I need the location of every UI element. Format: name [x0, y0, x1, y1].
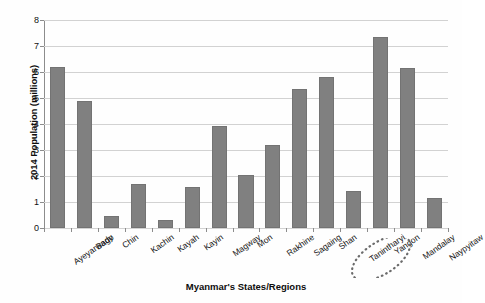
y-tick-label: 3	[34, 145, 39, 155]
bar-slot	[98, 20, 125, 228]
bar[interactable]	[319, 77, 334, 228]
bar[interactable]	[427, 198, 442, 228]
bar-slot	[259, 20, 286, 228]
y-tick-label: 1	[34, 197, 39, 207]
bar[interactable]	[212, 126, 227, 228]
bar-slot	[179, 20, 206, 228]
x-tick-label-bago: Bago	[94, 232, 116, 252]
bar[interactable]	[185, 187, 200, 228]
bar-slot	[421, 20, 448, 228]
y-tick-label: 5	[34, 93, 39, 103]
bar-slot	[233, 20, 260, 228]
bar-slot	[286, 20, 313, 228]
bar[interactable]	[50, 67, 65, 228]
bar[interactable]	[77, 101, 92, 228]
bar[interactable]	[346, 191, 361, 228]
bar[interactable]	[292, 89, 307, 228]
bar-slot	[71, 20, 98, 228]
x-tick-label-kachin: Kachin	[149, 232, 176, 255]
plot-area: 012345678	[44, 20, 448, 228]
y-tick-label: 2	[34, 171, 39, 181]
y-tick-label: 7	[34, 41, 39, 51]
bar-slot	[394, 20, 421, 228]
bar[interactable]	[400, 68, 415, 228]
bar-slot	[44, 20, 71, 228]
bar[interactable]	[373, 37, 388, 228]
bar[interactable]	[238, 175, 253, 228]
y-tick-label: 0	[34, 223, 39, 233]
bar-slot	[152, 20, 179, 228]
bar[interactable]	[104, 216, 119, 228]
x-axis-title: Myanmar's States/Regions	[44, 281, 448, 292]
y-tick-label: 6	[34, 67, 39, 77]
x-tick-label-chin: Chin	[120, 232, 140, 250]
y-tick-label: 4	[34, 119, 39, 129]
x-tick-label-kayah: Kayah	[175, 232, 200, 254]
grid-line	[44, 228, 448, 229]
bar[interactable]	[158, 220, 173, 228]
x-tick-label-kayin: Kayin	[202, 232, 225, 252]
bar[interactable]	[131, 184, 146, 228]
x-tick-mark	[448, 228, 449, 232]
y-tick-label: 8	[34, 15, 39, 25]
x-axis-labels: AyeyarwadyBagoChinKachinKayahKayinMagway…	[44, 232, 448, 278]
bar-slot	[313, 20, 340, 228]
bar-slot	[367, 20, 394, 228]
bar[interactable]	[265, 145, 280, 228]
bar-slot	[125, 20, 152, 228]
x-tick-label-rakhine: Rakhine	[284, 232, 315, 258]
bars-layer	[44, 20, 448, 228]
bar-slot	[206, 20, 233, 228]
bar-slot	[340, 20, 367, 228]
